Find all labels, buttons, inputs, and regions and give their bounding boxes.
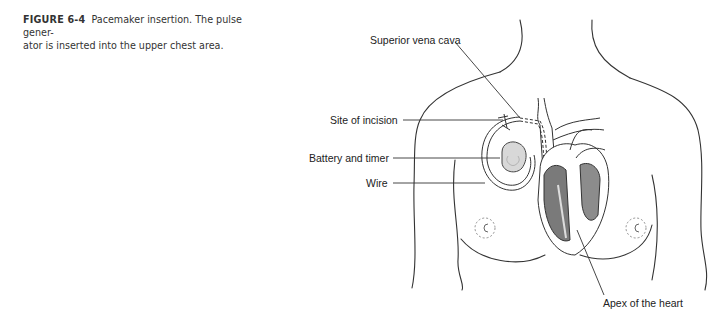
leader-superior-vena-cava (455, 42, 520, 118)
left-shoulder-arm (412, 72, 500, 288)
right-nipple (635, 224, 639, 232)
incision-stitch-1 (498, 116, 508, 118)
incision-stitch-2 (502, 125, 510, 130)
right-shoulder-arm (630, 78, 707, 290)
label-wire: Wire (366, 177, 388, 189)
right-areola (626, 218, 646, 238)
label-battery-and-timer: Battery and timer (309, 152, 389, 164)
label-apex-of-heart: Apex of the heart (603, 297, 683, 309)
neck-left-outline (500, 20, 522, 72)
left-nipple (484, 224, 488, 232)
label-superior-vena-cava: Superior vena cava (370, 34, 460, 46)
neck-right-outline (592, 20, 630, 78)
aortic-arch (553, 129, 604, 140)
battery-device (502, 142, 526, 172)
label-site-of-incision: Site of incision (330, 114, 398, 126)
subclavian-vein (555, 118, 600, 130)
left-breast (461, 239, 545, 262)
left-areola (475, 218, 495, 238)
torso-left-side (454, 160, 463, 290)
torso-right-side (652, 175, 657, 280)
left-ventricle (580, 163, 600, 220)
